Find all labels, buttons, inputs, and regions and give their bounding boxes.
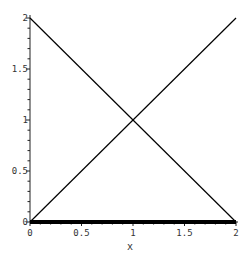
y-tick-label: 1 xyxy=(23,115,28,125)
y-tick-label: 0 xyxy=(23,217,28,227)
x-axis-label: x xyxy=(127,241,133,252)
x-tick-label: 0.5 xyxy=(73,228,89,238)
y-tick-label: 0.5 xyxy=(12,166,28,176)
x-tick-label: 2 xyxy=(233,228,238,238)
series-group xyxy=(30,18,236,222)
x-tick-label: 1 xyxy=(130,228,135,238)
y-tick-label: 2 xyxy=(23,13,28,23)
x-tick-label: 0 xyxy=(27,228,32,238)
line-chart: 00.511.5200.511.52 x xyxy=(0,0,251,261)
tick-labels: 00.511.5200.511.52 xyxy=(12,13,239,238)
y-tick-label: 1.5 xyxy=(12,64,28,74)
x-tick-label: 1.5 xyxy=(176,228,192,238)
